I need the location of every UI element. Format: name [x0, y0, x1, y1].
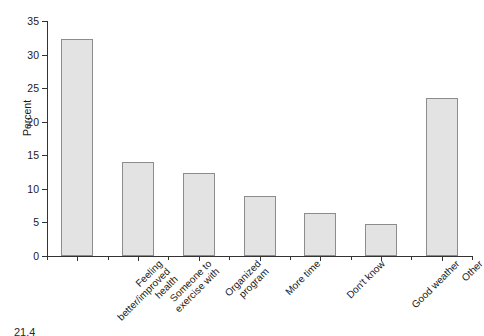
figure-caption: 21.4 [14, 326, 35, 336]
bar-5 [365, 224, 397, 256]
x-category-label-6: Other [459, 258, 484, 283]
y-tick-label-0: 0 [33, 251, 39, 261]
y-tick-20 [42, 122, 47, 123]
y-tick-label-15: 15 [27, 150, 39, 160]
x-category-label-3: More time [283, 258, 322, 297]
y-tick-label-5: 5 [33, 217, 39, 227]
y-tick-5 [42, 222, 47, 223]
y-tick-15 [42, 155, 47, 156]
x-category-label-4: Don't know [345, 258, 388, 301]
bar-3 [244, 196, 276, 256]
plot-area [47, 21, 472, 256]
y-tick-25 [42, 88, 47, 89]
y-tick-label-25: 25 [27, 83, 39, 93]
bar-4 [304, 213, 336, 256]
x-axis-category-labels: Feeling better/improved healthSomeone to… [47, 258, 472, 336]
y-tick-10 [42, 189, 47, 190]
y-axis-line [47, 21, 48, 257]
bar-0 [61, 39, 93, 256]
y-tick-35 [42, 21, 47, 22]
x-category-label-5: Good weather [409, 258, 461, 310]
bar-2 [183, 173, 215, 256]
y-axis-title: Percent [21, 100, 33, 136]
y-tick-30 [42, 55, 47, 56]
y-tick-label-10: 10 [27, 184, 39, 194]
x-category-label-2: Organized program [222, 258, 270, 306]
y-tick-label-30: 30 [27, 50, 39, 60]
x-boundary-tick-7 [472, 256, 473, 260]
y-tick-label-35: 35 [27, 16, 39, 26]
bar-6 [426, 98, 458, 256]
bar-1 [122, 162, 154, 256]
y-axis-tick-labels: 05101520253035 [0, 21, 41, 257]
